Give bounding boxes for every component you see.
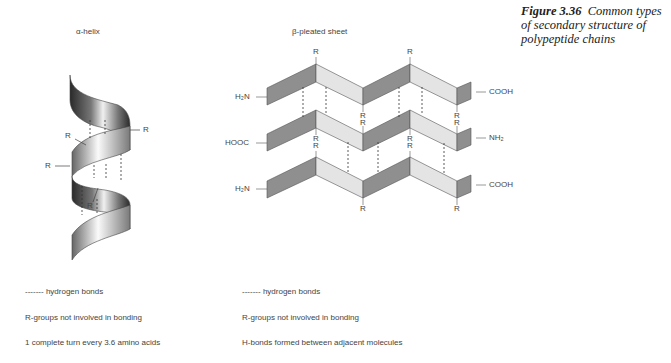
sheet-legend-hbonds: ------- hydrogen bonds — [242, 287, 320, 296]
sheet-r-label: R — [313, 141, 319, 150]
sheet-legend-hbonds-adjacent: H-bonds formed between adjacent molecule… — [242, 338, 403, 347]
sheet-r-label: R — [313, 47, 319, 56]
legend-text: hydrogen bonds — [46, 287, 103, 296]
strand-1-right-label: COOH — [489, 87, 513, 96]
sheet-r-label: R — [407, 47, 413, 56]
sheet-legend-rgroups: R-groups not involved in bonding — [242, 313, 359, 322]
helix-legend-rgroups: R-groups not involved in bonding — [25, 313, 142, 322]
sheet-r-label: R — [407, 141, 413, 150]
dash-sample: ------- — [242, 287, 261, 296]
strand-3-left-label: H₂N — [235, 184, 250, 193]
sheet-r-label: R — [360, 204, 366, 213]
strand-3-right-label: COOH — [489, 180, 513, 189]
sheet-r-label: R — [454, 118, 460, 127]
helix-legend-turn: 1 complete turn every 3.6 amino acids — [25, 338, 160, 347]
strand-2-right-label: NH₂ — [489, 133, 504, 142]
sheet-r-label: R — [454, 204, 460, 213]
dash-sample: ------- — [25, 287, 44, 296]
strand-1-left-label: H₂N — [235, 92, 250, 101]
sheet-r-label: R — [360, 118, 366, 127]
beta-sheet-diagram — [0, 0, 671, 363]
strand-2-left-label: HOOC — [225, 138, 249, 147]
legend-text: hydrogen bonds — [263, 287, 320, 296]
helix-legend-hbonds: ------- hydrogen bonds — [25, 287, 103, 296]
